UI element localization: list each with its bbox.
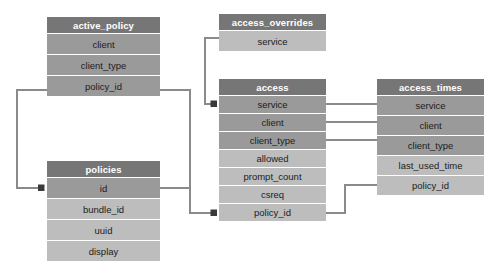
field-access-client[interactable]: client [219, 113, 326, 131]
field-policies-id[interactable]: id [47, 177, 160, 198]
table-header-access-times: access_times [377, 79, 484, 95]
field-policies-display[interactable]: display [47, 240, 160, 261]
table-access[interactable]: access service client client_type allowe… [219, 79, 326, 221]
field-active-policy-policy-id[interactable]: policy_id [47, 75, 160, 96]
field-active-policy-client-type[interactable]: client_type [47, 54, 160, 75]
field-access-times-last-used-time[interactable]: last_used_time [377, 155, 484, 175]
table-header-policies: policies [47, 161, 160, 177]
field-access-csreq[interactable]: csreq [219, 185, 326, 203]
field-access-service[interactable]: service [219, 95, 326, 113]
field-access-times-service[interactable]: service [377, 95, 484, 115]
field-access-allowed[interactable]: allowed [219, 149, 326, 167]
field-access-times-client-type[interactable]: client_type [377, 135, 484, 155]
field-access-times-client[interactable]: client [377, 115, 484, 135]
field-policies-bundle-id[interactable]: bundle_id [47, 198, 160, 219]
field-access-prompt-count[interactable]: prompt_count [219, 167, 326, 185]
table-active-policy[interactable]: active_policy client client_type policy_… [47, 17, 160, 96]
field-active-policy-client[interactable]: client [47, 33, 160, 54]
connector-times-policy-to-access [326, 185, 377, 213]
table-header-access: access [219, 79, 326, 95]
field-access-overrides-service[interactable]: service [219, 30, 326, 51]
connector-active-policy-to-policies [17, 90, 47, 188]
table-policies[interactable]: policies id bundle_id uuid display [47, 161, 160, 261]
table-header-active-policy: active_policy [47, 17, 160, 33]
arrowhead-access-policy-id [211, 210, 218, 217]
field-access-policy-id[interactable]: policy_id [219, 203, 326, 221]
field-access-client-type[interactable]: client_type [219, 131, 326, 149]
arrowhead-policies-id [38, 185, 45, 192]
table-header-access-overrides: access_overrides [219, 14, 326, 30]
field-policies-uuid[interactable]: uuid [47, 219, 160, 240]
erd-canvas: active_policy client client_type policy_… [0, 0, 496, 273]
field-access-times-policy-id[interactable]: policy_id [377, 175, 484, 195]
connector-overrides-to-access [205, 38, 219, 104]
table-access-overrides[interactable]: access_overrides service [219, 14, 326, 51]
arrowhead-access-service [211, 101, 218, 108]
connector-active-policy-to-access [160, 90, 215, 213]
table-access-times[interactable]: access_times service client client_type … [377, 79, 484, 195]
